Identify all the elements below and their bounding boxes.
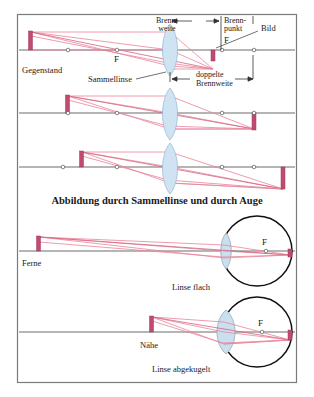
focal-dot-2f-right-3 bbox=[252, 165, 256, 169]
panel-eye-far: F Ferne Linse flach bbox=[19, 216, 295, 292]
image-arrow-3 bbox=[281, 167, 285, 189]
focal-dot-2f-left-3 bbox=[61, 165, 65, 169]
object-arrow-2 bbox=[66, 95, 70, 113]
focal-dot-f-right-3 bbox=[220, 165, 224, 169]
image-arrow-2 bbox=[252, 113, 256, 130]
panel-lens-2 bbox=[19, 88, 295, 140]
panel-lens-1: Brenn- weite Brenn- punkt F Bild Gegenst… bbox=[19, 16, 295, 88]
object-arrow-1 bbox=[29, 31, 33, 50]
lens-leader-line bbox=[136, 72, 166, 79]
focal-dot-2f-left-1 bbox=[66, 48, 70, 52]
focal-point-label-line2: punkt bbox=[224, 24, 243, 33]
image-arrow-1 bbox=[211, 50, 215, 61]
focal-dot-2f-right-1 bbox=[252, 48, 256, 52]
panel-eye-near: F Nähe Linse abgekugelt bbox=[19, 297, 295, 374]
caption-lens-flat: Linse flach bbox=[172, 282, 211, 292]
focal-dot-2f-right-2 bbox=[252, 111, 256, 115]
caption-lens-rounded: Linse abgekugelt bbox=[152, 364, 211, 374]
lens-label: Sammellinse bbox=[88, 74, 132, 84]
focal-point-f-left-1: F bbox=[114, 54, 119, 64]
focal-dot-2f-left-2 bbox=[66, 111, 70, 115]
focal-dot-f-left-1 bbox=[115, 48, 119, 52]
optics-diagram-svg: Brenn- weite Brenn- punkt F Bild Gegenst… bbox=[0, 0, 314, 397]
object-arrow-4 bbox=[37, 236, 41, 251]
optics-figure: Brenn- weite Brenn- punkt F Bild Gegenst… bbox=[0, 0, 314, 397]
figure-title: Abbildung durch Sammellinse und durch Au… bbox=[51, 195, 262, 206]
double-focal-label-line2: Brennweite bbox=[196, 79, 233, 88]
image-leader-line bbox=[216, 31, 258, 48]
focal-dot-f-right-2 bbox=[220, 111, 224, 115]
focal-point-eye-rounded: F bbox=[258, 318, 263, 328]
retina-image-rounded bbox=[288, 330, 292, 340]
focal-dot-eye-rounded bbox=[260, 330, 264, 334]
converging-lens-3 bbox=[163, 143, 178, 194]
focal-length-dimension bbox=[172, 19, 219, 23]
object-label-far: Ferne bbox=[22, 258, 42, 268]
retina-image-flat bbox=[288, 249, 292, 257]
image-label: Bild bbox=[261, 23, 276, 33]
focal-dot-f-left-2 bbox=[115, 111, 119, 115]
focal-dot-f-left-3 bbox=[115, 165, 119, 169]
focal-dot-eye-flat bbox=[264, 249, 268, 253]
light-rays-3 bbox=[82, 152, 283, 189]
double-focal-label-line1: doppelte bbox=[196, 70, 224, 79]
focal-point-eye-flat: F bbox=[262, 237, 267, 247]
focal-length-label-line2: weite bbox=[158, 24, 176, 33]
object-arrow-3 bbox=[80, 151, 84, 167]
object-label-near: Nähe bbox=[140, 340, 158, 350]
object-label-1: Gegenstand bbox=[22, 65, 63, 75]
object-arrow-5 bbox=[150, 316, 154, 332]
panel-lens-3 bbox=[19, 143, 295, 194]
light-rays-4 bbox=[39, 237, 290, 258]
